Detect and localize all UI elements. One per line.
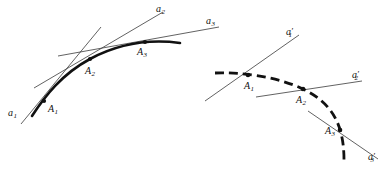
tangent-label-a3-prime: a′3 <box>368 152 374 164</box>
point-label-A1-prime: A1 <box>244 81 254 93</box>
tangency-point-A2 <box>88 57 92 61</box>
tangency-point-A3-prime <box>338 128 343 133</box>
right-diagram-group <box>205 35 378 160</box>
tangent-line-a2-prime <box>256 81 362 97</box>
point-label-A1: A1 <box>48 104 58 116</box>
figure-container: A1 A2 A3 a1 a2 a3 A1 A2 A3 a′1 a′2 a′3 <box>0 0 385 184</box>
point-label-A3-prime: A3 <box>325 126 335 138</box>
tangent-label-a2: a2 <box>156 4 165 16</box>
tangent-label-a1: a1 <box>8 108 17 120</box>
tangent-label-a1-prime: a′1 <box>286 27 292 39</box>
tangency-point-A2-prime <box>301 87 306 92</box>
tangency-point-A1 <box>42 99 46 103</box>
dashed-curve <box>215 73 344 160</box>
tangent-label-a3: a3 <box>206 16 215 28</box>
point-label-A2: A2 <box>85 66 95 78</box>
tangent-label-a2-prime: a′2 <box>352 70 358 82</box>
tangency-point-A3 <box>143 40 147 44</box>
point-label-A3: A3 <box>137 47 147 59</box>
point-label-A2-prime: A2 <box>296 95 306 107</box>
tangency-point-A1-prime <box>246 73 251 78</box>
figure-drawing <box>0 0 385 184</box>
